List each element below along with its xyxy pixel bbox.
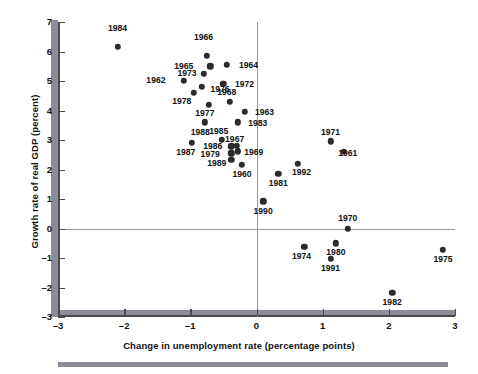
data-point (275, 171, 281, 177)
data-point (235, 148, 241, 154)
y-tick (58, 229, 65, 230)
data-point-label: 1984 (108, 24, 127, 33)
bottom-decorative-rule (58, 362, 448, 367)
horizontal-zero-line (58, 229, 455, 230)
y-axis-title: Growth rate of real GDP (percent) (29, 62, 40, 282)
data-point (188, 140, 194, 146)
data-point-label: 1988 (191, 127, 210, 136)
data-point (294, 160, 300, 166)
data-point-label: 1961 (338, 149, 357, 158)
x-tick-label: 3 (452, 321, 457, 331)
data-point-label: 1966 (194, 33, 213, 42)
data-point-label: 1987 (176, 148, 195, 157)
y-tick-label: –3 (41, 312, 52, 322)
data-point-label: 1967 (225, 134, 244, 143)
data-point (227, 98, 233, 104)
x-tick (389, 309, 390, 316)
data-point (327, 138, 333, 144)
data-point (440, 247, 446, 253)
y-tick-label: 4 (47, 106, 52, 116)
x-tick-label: 0 (254, 321, 259, 331)
data-point (389, 290, 395, 296)
x-tick (257, 309, 258, 316)
data-point-label: 1970 (338, 214, 357, 223)
data-point (327, 255, 333, 261)
y-tick-label: 6 (47, 47, 52, 57)
data-point-label: 1992 (292, 168, 311, 177)
data-point-label: 1969 (244, 148, 263, 157)
x-tick-label: –1 (185, 321, 196, 331)
y-tick (58, 111, 65, 112)
y-tick (58, 140, 65, 141)
x-tick-label: 1 (320, 321, 325, 331)
scatter-plot-figure: Growth rate of real GDP (percent) –3–2–1… (0, 0, 478, 374)
data-point (207, 63, 213, 69)
data-point (204, 53, 210, 59)
data-point-label: 1974 (292, 252, 311, 261)
data-point-label: 1971 (321, 127, 340, 136)
y-tick (58, 52, 65, 53)
data-point (202, 119, 208, 125)
x-tick (323, 309, 324, 316)
data-point (228, 143, 234, 149)
x-tick-label: –2 (119, 321, 130, 331)
y-tick-label: 2 (47, 165, 52, 175)
x-tick (124, 309, 125, 316)
data-point (200, 70, 206, 76)
data-point (228, 157, 234, 163)
y-tick (58, 199, 65, 200)
data-point (235, 119, 241, 125)
y-tick (58, 81, 65, 82)
y-tick (58, 22, 65, 23)
data-point-label: 1991 (321, 264, 340, 273)
data-point-label: 1981 (269, 178, 288, 187)
data-point (224, 62, 230, 68)
y-tick (58, 258, 65, 259)
data-point-label: 1978 (172, 97, 191, 106)
x-tick (58, 309, 59, 316)
data-point-label: 1962 (146, 76, 165, 85)
data-point-label: 1963 (255, 108, 274, 117)
data-point-label: 1960 (232, 169, 251, 178)
data-point (239, 162, 245, 168)
y-tick-label: 0 (47, 224, 52, 234)
data-point (228, 150, 234, 156)
x-axis-title: Change in unemployment rate (percentage … (0, 340, 478, 351)
y-tick-label: –2 (41, 283, 52, 293)
data-point (241, 109, 247, 115)
data-point-label: 1977 (195, 109, 214, 118)
data-point-label: 1975 (434, 255, 453, 264)
data-point-label: 1990 (254, 207, 273, 216)
y-tick (58, 288, 65, 289)
data-point-label: 1964 (239, 60, 258, 69)
data-point (333, 240, 339, 246)
data-point (301, 244, 307, 250)
y-tick (58, 170, 65, 171)
x-tick (455, 309, 456, 316)
y-tick-label: 5 (47, 76, 52, 86)
data-point-label: 1982 (383, 298, 402, 307)
plot-area: –3–2–101234567 –3–2–10123 19841966196419… (58, 22, 455, 317)
data-point (181, 78, 187, 84)
data-point (190, 90, 196, 96)
data-point-label: 1989 (207, 159, 226, 168)
y-tick-label: 7 (47, 17, 52, 27)
data-point-label: 1983 (248, 119, 267, 128)
data-point-label: 1968 (217, 88, 236, 97)
x-tick-label: –3 (53, 321, 64, 331)
data-point (198, 84, 204, 90)
data-point (345, 225, 351, 231)
y-tick (58, 317, 65, 318)
data-point (114, 44, 120, 50)
y-axis-accent-band (51, 20, 58, 317)
data-point-label: 1972 (235, 80, 254, 89)
data-point-label: 1973 (177, 68, 196, 77)
y-tick-label: –1 (41, 253, 52, 263)
data-point (260, 198, 266, 204)
y-tick-label: 3 (47, 135, 52, 145)
y-tick-label: 1 (47, 194, 52, 204)
x-tick (190, 309, 191, 316)
x-tick-label: 2 (386, 321, 391, 331)
